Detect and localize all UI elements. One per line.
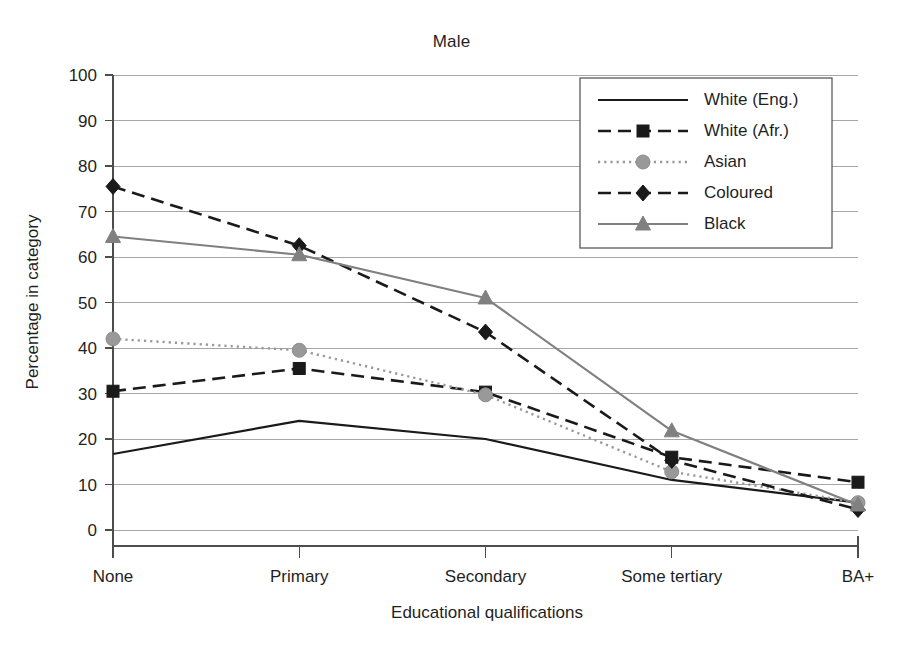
legend-label: Coloured (704, 183, 773, 202)
series-line (113, 339, 858, 503)
data-point-marker-diamond (106, 178, 120, 194)
y-axis-tick-labels: 0102030405060708090100 (69, 66, 97, 540)
y-axis-title: Percentage in category (23, 214, 42, 389)
y-tick-label: 40 (78, 339, 97, 358)
data-point-marker-diamond (479, 324, 493, 340)
data-point-marker-square (107, 385, 119, 397)
y-tick-label: 80 (78, 157, 97, 176)
legend-label: White (Afr.) (704, 121, 789, 140)
y-tick-label: 0 (88, 521, 97, 540)
series-line (113, 237, 858, 505)
x-axis-title: Educational qualifications (391, 603, 583, 622)
x-tick-label-some-tertiary: Some tertiary (621, 567, 723, 586)
y-tick-label: 70 (78, 203, 97, 222)
series-white-eng- (113, 421, 858, 503)
data-point-marker-circle (636, 155, 650, 169)
data-point-marker-square (637, 125, 649, 137)
series-white-afr- (107, 362, 864, 488)
y-tick-label: 60 (78, 248, 97, 267)
data-point-marker-circle (106, 332, 120, 346)
x-tick-label-primary: Primary (270, 567, 329, 586)
data-point-marker-triangle (664, 423, 679, 437)
y-tick-label: 50 (78, 294, 97, 313)
x-tick-label-ba-: BA+ (842, 567, 875, 586)
series-line (113, 368, 858, 482)
x-axis-ticks: NonePrimarySecondarySome tertiaryBA+ (93, 546, 875, 586)
data-point-marker-square (293, 362, 305, 374)
y-tick-label: 30 (78, 385, 97, 404)
data-point-marker-square (852, 476, 864, 488)
x-tick-label-none: None (93, 567, 134, 586)
series-black (106, 229, 866, 511)
chart-figure: Male 0102030405060708090100 NonePrimaryS… (0, 0, 903, 647)
chart-legend: White (Eng.)White (Afr.)AsianColouredBla… (580, 78, 832, 248)
y-tick-label: 10 (78, 476, 97, 495)
legend-label: Asian (704, 152, 747, 171)
y-tick-label: 100 (69, 66, 97, 85)
y-tick-label: 90 (78, 112, 97, 131)
legend-label: Black (704, 214, 746, 233)
legend-label: White (Eng.) (704, 90, 798, 109)
data-point-marker-circle (479, 388, 493, 402)
line-chart-plot: 0102030405060708090100 NonePrimarySecond… (0, 0, 903, 647)
y-tick-label: 20 (78, 430, 97, 449)
data-point-marker-circle (292, 343, 306, 357)
data-point-marker-triangle (106, 229, 121, 243)
series-asian (106, 332, 865, 510)
x-tick-label-secondary: Secondary (445, 567, 527, 586)
series-line (113, 421, 858, 503)
